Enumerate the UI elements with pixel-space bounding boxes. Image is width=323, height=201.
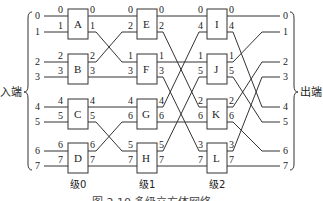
svg-text:0: 0	[229, 4, 234, 15]
stage-2-label: 级2	[209, 179, 225, 190]
svg-text:C: C	[74, 108, 81, 120]
svg-text:4: 4	[90, 95, 95, 106]
svg-text:6: 6	[159, 110, 164, 121]
svg-text:2: 2	[159, 20, 164, 31]
svg-text:6: 6	[90, 139, 95, 150]
svg-text:0: 0	[198, 4, 203, 15]
svg-text:6: 6	[229, 110, 234, 121]
svg-text:A: A	[74, 18, 82, 30]
figure-caption: 图 2.10 多级立方体网络	[92, 195, 212, 201]
input-0: 0	[35, 10, 40, 21]
svg-text:7: 7	[128, 154, 133, 165]
svg-text:3: 3	[229, 139, 234, 150]
svg-text:1: 1	[90, 20, 95, 31]
svg-text:3: 3	[198, 139, 203, 150]
input-5: 5	[35, 116, 40, 127]
svg-text:7: 7	[229, 154, 234, 165]
svg-text:6: 6	[128, 110, 133, 121]
svg-text:4: 4	[159, 95, 164, 106]
output-2: 2	[283, 56, 288, 67]
svg-text:1: 1	[128, 50, 133, 61]
input-1: 1	[35, 26, 40, 37]
svg-text:4: 4	[198, 20, 203, 31]
svg-text:2: 2	[128, 20, 133, 31]
input-2: 2	[35, 56, 40, 67]
svg-text:7: 7	[90, 154, 95, 165]
svg-text:3: 3	[90, 65, 95, 76]
output-4: 4	[283, 101, 288, 112]
svg-text:3: 3	[159, 65, 164, 76]
cube-network-diagram: 入端 0 1 2 3 4 5 6 7 A 0 1 0 1 B 2 3 2 3 C…	[0, 0, 323, 201]
output-5: 5	[283, 116, 288, 127]
svg-text:7: 7	[159, 154, 164, 165]
output-1: 1	[283, 26, 288, 37]
svg-text:H: H	[142, 152, 150, 164]
input-brace	[24, 12, 32, 170]
svg-text:6: 6	[58, 139, 63, 150]
svg-text:1: 1	[159, 50, 164, 61]
input-3: 3	[35, 71, 40, 82]
svg-text:1: 1	[58, 20, 63, 31]
svg-text:4: 4	[58, 95, 63, 106]
svg-text:4: 4	[128, 95, 133, 106]
svg-text:I: I	[215, 18, 219, 30]
svg-text:B: B	[74, 63, 81, 75]
svg-text:K: K	[212, 108, 220, 120]
svg-text:5: 5	[198, 65, 203, 76]
svg-text:0: 0	[90, 4, 95, 15]
output-3: 3	[283, 71, 288, 82]
svg-text:7: 7	[58, 154, 63, 165]
stage-0-label: 级0	[70, 179, 86, 190]
svg-text:5: 5	[58, 110, 63, 121]
input-wires	[44, 16, 68, 166]
input-label: 入端	[0, 86, 22, 99]
svg-text:0: 0	[159, 4, 164, 15]
svg-text:J: J	[214, 63, 219, 75]
svg-text:2: 2	[58, 50, 63, 61]
svg-text:L: L	[213, 152, 220, 164]
output-7: 7	[283, 160, 288, 171]
svg-text:2: 2	[198, 95, 203, 106]
output-0: 0	[283, 10, 288, 21]
svg-text:0: 0	[128, 4, 133, 15]
svg-text:4: 4	[229, 20, 234, 31]
svg-text:7: 7	[198, 154, 203, 165]
svg-text:D: D	[74, 152, 82, 164]
svg-text:E: E	[143, 18, 150, 30]
stage-1-label: 级1	[139, 179, 155, 190]
svg-text:1: 1	[198, 50, 203, 61]
svg-text:5: 5	[159, 139, 164, 150]
svg-text:5: 5	[90, 110, 95, 121]
svg-text:3: 3	[128, 65, 133, 76]
input-6: 6	[35, 145, 40, 156]
svg-text:2: 2	[90, 50, 95, 61]
output-label: 出端	[300, 85, 322, 99]
svg-text:F: F	[143, 63, 149, 75]
input-4: 4	[35, 101, 40, 112]
svg-text:0: 0	[58, 4, 63, 15]
output-brace	[290, 12, 298, 170]
svg-text:1: 1	[229, 50, 234, 61]
svg-text:5: 5	[229, 65, 234, 76]
svg-text:G: G	[142, 108, 150, 120]
output-wires	[227, 16, 280, 166]
svg-text:5: 5	[128, 139, 133, 150]
svg-text:3: 3	[58, 65, 63, 76]
input-7: 7	[35, 160, 40, 171]
output-6: 6	[283, 145, 288, 156]
svg-text:2: 2	[229, 95, 234, 106]
svg-text:6: 6	[198, 110, 203, 121]
